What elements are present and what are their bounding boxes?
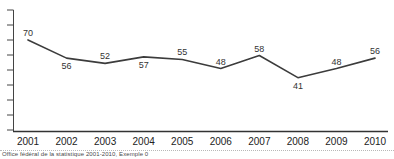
x-axis-label: 2003 [94,136,117,147]
x-axis-label: 2005 [171,136,194,147]
line-chart: 7056525755485841485620012002200320042005… [0,0,394,150]
series-line [28,40,375,78]
data-label: 55 [177,47,187,57]
x-axis-label: 2009 [325,136,348,147]
data-label: 52 [100,51,110,61]
source-caption: Office fédéral de la statistique 2001-20… [2,151,148,158]
data-label: 56 [62,61,72,71]
data-label: 56 [370,46,380,56]
x-axis-label: 2002 [55,136,78,147]
x-axis-label: 2006 [210,136,233,147]
data-label: 57 [139,60,149,70]
x-axis-label: 2010 [364,136,387,147]
x-axis-label: 2004 [133,136,156,147]
x-axis-label: 2007 [248,136,271,147]
data-label: 48 [216,57,226,67]
x-axis-label: 2001 [17,136,40,147]
data-label: 48 [331,57,341,67]
data-label: 58 [254,44,264,54]
x-axis-label: 2008 [287,136,310,147]
chart-screenshot: 7056525755485841485620012002200320042005… [0,0,394,159]
data-label: 70 [23,28,33,38]
data-label: 41 [293,81,303,91]
